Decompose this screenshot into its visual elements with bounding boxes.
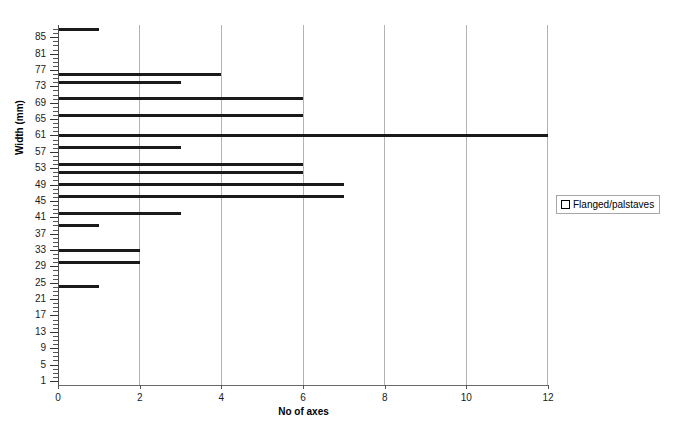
y-axis-label-text: 81 [18, 49, 46, 59]
x-axis-tick [140, 385, 141, 389]
y-axis-title: Width (mm) [14, 100, 25, 155]
bar [58, 81, 181, 84]
y-axis-tick [50, 315, 58, 316]
y-axis-tick [53, 213, 58, 214]
y-axis-label: 49 [0, 180, 46, 190]
y-axis-label: 85 [0, 32, 46, 42]
y-axis-tick [53, 311, 58, 312]
x-axis-label-text: 2 [120, 392, 160, 403]
y-axis-tick [53, 123, 58, 124]
y-axis-tick [53, 336, 58, 337]
y-axis-label: 17 [0, 310, 46, 320]
y-axis-tick [50, 365, 58, 366]
x-axis-label-text: 4 [201, 392, 241, 403]
y-axis-label-text: 33 [18, 245, 46, 255]
plot-area [58, 25, 548, 385]
y-axis-label: 37 [0, 229, 46, 239]
y-axis-label: 77 [0, 65, 46, 75]
bar [58, 195, 344, 198]
gridline-vertical [466, 25, 467, 385]
y-axis-label: 21 [0, 294, 46, 304]
gridline-vertical [139, 25, 140, 385]
y-axis-label: 81 [0, 49, 46, 59]
y-axis-label-text: 5 [18, 360, 46, 370]
y-axis-label-text: 85 [18, 32, 46, 42]
y-axis-tick [53, 340, 58, 341]
y-axis-label: 5 [0, 360, 46, 370]
x-axis-label-text: 12 [528, 392, 568, 403]
y-axis-line [58, 25, 59, 385]
y-axis-label-text: 41 [18, 212, 46, 222]
x-axis-tick [303, 385, 304, 389]
y-axis-tick [50, 234, 58, 235]
x-axis-label-text: 6 [283, 392, 323, 403]
y-axis-tick [53, 221, 58, 222]
y-axis-tick [53, 205, 58, 206]
legend-swatch-icon [561, 200, 570, 209]
y-axis-tick [53, 74, 58, 75]
y-axis-tick [53, 115, 58, 116]
y-axis-tick [53, 377, 58, 378]
y-axis-tick [53, 164, 58, 165]
y-axis-tick [53, 295, 58, 296]
y-axis-tick [53, 356, 58, 357]
y-axis-label-text: 13 [18, 327, 46, 337]
y-axis-tick [53, 307, 58, 308]
y-axis-tick [53, 270, 58, 271]
y-axis-label: 45 [0, 196, 46, 206]
y-axis-tick [53, 78, 58, 79]
y-axis-tick [53, 131, 58, 132]
y-axis-tick [50, 381, 58, 382]
y-axis-label: 33 [0, 245, 46, 255]
bar [58, 134, 548, 137]
y-axis-tick [53, 180, 58, 181]
y-axis-tick [53, 275, 58, 276]
y-axis-label-text: 29 [18, 261, 46, 271]
y-axis-label-text: 73 [18, 81, 46, 91]
y-axis-tick [53, 160, 58, 161]
y-axis-tick [53, 33, 58, 34]
y-axis-tick [53, 254, 58, 255]
y-axis-tick [50, 168, 58, 169]
y-axis-tick [53, 140, 58, 141]
y-axis-tick [50, 135, 58, 136]
y-axis-tick [53, 172, 58, 173]
y-axis-tick [50, 54, 58, 55]
y-axis-tick [53, 369, 58, 370]
y-axis-tick [53, 111, 58, 112]
y-axis-tick [53, 156, 58, 157]
chart-legend[interactable]: Flanged/palstaves [556, 195, 660, 214]
y-axis-label: 29 [0, 261, 46, 271]
y-axis-tick [53, 262, 58, 263]
y-axis-tick [53, 291, 58, 292]
x-axis-tick [221, 385, 222, 389]
y-axis-tick [53, 29, 58, 30]
x-axis-tick [58, 385, 59, 389]
y-axis-tick [53, 41, 58, 42]
bar [58, 171, 303, 174]
y-axis-tick [50, 250, 58, 251]
bar [58, 114, 303, 117]
bar [58, 261, 140, 264]
y-axis-tick [53, 242, 58, 243]
y-axis-tick [53, 144, 58, 145]
bar [58, 163, 303, 166]
y-axis-tick [50, 119, 58, 120]
y-axis-label: 73 [0, 81, 46, 91]
y-axis-tick [50, 37, 58, 38]
y-axis-tick [50, 185, 58, 186]
x-axis-title: No of axes [58, 406, 549, 417]
y-axis-tick [53, 287, 58, 288]
y-axis-tick [53, 324, 58, 325]
gridline-vertical [221, 25, 222, 385]
bar [58, 224, 99, 227]
y-axis-label-text: 9 [18, 343, 46, 353]
y-axis-tick [53, 373, 58, 374]
y-axis-label-text: 21 [18, 294, 46, 304]
y-axis-tick [53, 303, 58, 304]
y-axis-tick [53, 58, 58, 59]
y-axis-label: 41 [0, 212, 46, 222]
y-axis-label-text: 77 [18, 65, 46, 75]
y-axis-tick [53, 127, 58, 128]
y-axis-tick [53, 90, 58, 91]
